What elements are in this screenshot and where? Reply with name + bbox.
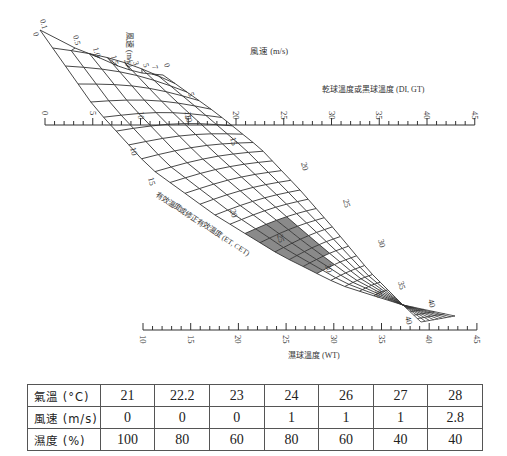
et-tick-label: 20 — [299, 161, 311, 172]
wind-speed-axis-label: 風速 (m/s) — [250, 46, 288, 56]
wet-bulb-tick-label: 35 — [377, 335, 387, 344]
wet-bulb-axis: 1015202530354045 — [138, 323, 482, 344]
table-cell: 80 — [155, 429, 210, 451]
wet-bulb-tick-label: 45 — [472, 335, 482, 344]
effective-temperature-axis-label: 有效溫度或修正有效溫度 (ET, CET) — [154, 189, 252, 258]
dry-bulb-tick-label: 40 — [422, 111, 432, 120]
nomogram-mesh — [40, 30, 455, 322]
conditions-table: 氣溫 (°C)2122.22324262728風速 (m/s)0001112.8… — [27, 384, 483, 451]
wind-speed-tick-label: 7 — [150, 64, 160, 70]
et-tick-label: 15 — [228, 136, 240, 147]
et-tick-label: 40 — [403, 315, 415, 326]
table-cell: 26 — [319, 385, 374, 407]
et-tick-label: 25 — [341, 198, 353, 209]
et-tick-label: 30 — [376, 238, 388, 249]
table-cell: 2.8 — [428, 407, 483, 429]
wet-bulb-tick-label: 10 — [138, 335, 148, 344]
wet-bulb-axis-label: 濕球溫度 (WT) — [288, 350, 340, 360]
table-cell: 80 — [264, 429, 319, 451]
dry-bulb-tick-label: 30 — [327, 111, 337, 120]
row-header: 濕度 (%) — [28, 429, 101, 451]
table-cell: 0 — [100, 407, 155, 429]
table-cell: 22.2 — [155, 385, 210, 407]
table-cell: 100 — [100, 429, 155, 451]
wet-bulb-tick-label: 25 — [281, 335, 291, 344]
wind-speed-ticks: 0.10.51.01.5235700 — [31, 18, 172, 70]
et-tick-label: 10 — [183, 113, 195, 124]
table-row: 風速 (m/s)0001112.8 — [28, 407, 483, 429]
wind-speed-end-label: 0 — [162, 62, 172, 68]
table-row: 濕度 (%)100806080604040 — [28, 429, 483, 451]
wind-speed-tick-label: 5 — [141, 62, 151, 68]
table-cell: 60 — [319, 429, 374, 451]
et-tick-label: 5 — [186, 91, 197, 98]
et-tick-label: 40 — [426, 298, 438, 309]
table-cell: 1 — [373, 407, 428, 429]
table-cell: 0 — [210, 407, 265, 429]
et-tick-label: 30 — [323, 263, 335, 274]
wet-bulb-tick-label: 40 — [424, 335, 434, 344]
row-header: 氣溫 (°C) — [28, 385, 101, 407]
et-tick-label: 15 — [146, 176, 158, 187]
table-cell: 23 — [210, 385, 265, 407]
nomogram-chart: 風速 (m/s) 風速 (m/s) 0.10.51.01.5235700 乾球溫… — [0, 0, 507, 380]
table-cell: 1 — [319, 407, 374, 429]
table-cell: 60 — [210, 429, 265, 451]
table-row: 氣溫 (°C)2122.22324262728 — [28, 385, 483, 407]
table-cell: 40 — [428, 429, 483, 451]
dry-bulb-tick-label: 0 — [40, 111, 50, 115]
wind-speed-tick-label: 0.5 — [71, 34, 82, 46]
table-cell: 40 — [373, 429, 428, 451]
table-cell: 24 — [264, 385, 319, 407]
wind-speed-tick-label: 0.1 — [38, 18, 49, 30]
dry-bulb-tick-label: 35 — [374, 111, 384, 120]
dry-bulb-tick-label: 25 — [279, 111, 289, 120]
table-cell: 0 — [155, 407, 210, 429]
row-header: 風速 (m/s) — [28, 407, 101, 429]
table-cell: 21 — [100, 385, 155, 407]
wet-bulb-tick-label: 15 — [186, 335, 196, 344]
wind-speed-zero-label: 0 — [31, 31, 41, 37]
table-cell: 28 — [428, 385, 483, 407]
et-tick-label: 35 — [396, 280, 408, 291]
table-cell: 27 — [373, 385, 428, 407]
dry-bulb-axis-label: 乾球溫度或黑球溫度 (DI, GT) — [322, 84, 425, 94]
dry-bulb-tick-label: 20 — [231, 111, 241, 120]
dry-bulb-tick-label: 45 — [470, 111, 480, 120]
wet-bulb-tick-label: 30 — [329, 335, 339, 344]
table-cell: 1 — [264, 407, 319, 429]
wet-bulb-tick-label: 20 — [233, 335, 243, 344]
dry-bulb-tick-label: 5 — [88, 111, 98, 115]
dry-bulb-axis: 051015202530354045 — [40, 111, 480, 125]
